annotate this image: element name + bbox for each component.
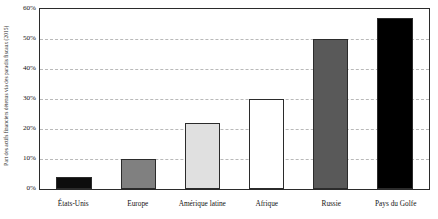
bar-slot <box>106 9 170 189</box>
bar-slot <box>299 9 363 189</box>
x-tick-label: Amérique latine <box>170 192 235 218</box>
bar-slot <box>42 9 106 189</box>
y-tick-label: 20% <box>23 124 36 132</box>
bar[interactable] <box>185 123 220 189</box>
y-tick-label: 0% <box>27 184 36 192</box>
y-axis-title-text: Part des actifs financiers détenus via d… <box>4 26 9 166</box>
y-tick-label: 40% <box>23 64 36 72</box>
bar-slot <box>235 9 299 189</box>
y-tick-label: 10% <box>23 154 36 162</box>
y-tick-label: 30% <box>23 94 36 102</box>
bar-chart: Part des actifs financiers détenus via d… <box>0 0 438 219</box>
bar-slot <box>363 9 427 189</box>
y-axis-title: Part des actifs financiers détenus via d… <box>0 0 14 192</box>
x-tick-label: Afrique <box>235 192 300 218</box>
bars-group <box>40 9 429 189</box>
x-tick-label: Pays du Golfe <box>364 192 429 218</box>
x-tick-label: Europe <box>106 192 171 218</box>
y-tick-label: 50% <box>23 34 36 42</box>
bar[interactable] <box>249 99 284 189</box>
bar[interactable] <box>313 39 348 189</box>
plot-area <box>39 8 430 190</box>
bar-slot <box>170 9 234 189</box>
y-tick-label: 60% <box>23 4 36 12</box>
bar[interactable] <box>121 159 156 189</box>
x-axis-tick-labels: États-UnisEuropeAmérique latineAfriqueRu… <box>39 192 430 218</box>
x-tick-label: Russie <box>299 192 364 218</box>
bar[interactable] <box>377 18 412 189</box>
y-axis-tick-labels: 0%10%20%30%40%50%60% <box>14 0 39 192</box>
x-tick-label: États-Unis <box>41 192 106 218</box>
bar[interactable] <box>56 177 91 189</box>
